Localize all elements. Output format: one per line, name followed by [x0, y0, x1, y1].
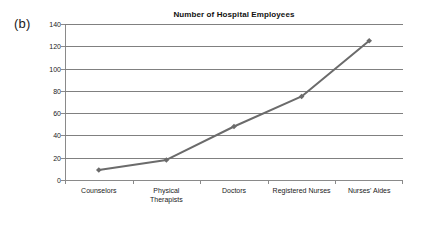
y-axis-tick-label: 100 [27, 65, 61, 72]
x-axis-category-label-line: Doctors [222, 187, 246, 194]
x-axis-tick-mark [65, 180, 66, 184]
x-axis-category-label-line: Counselors [81, 187, 116, 194]
x-axis-category-label-line: Nurses' Aides [348, 187, 391, 194]
series-line [65, 24, 403, 180]
y-axis-tick-label: 0 [27, 177, 61, 184]
x-axis-tick-marks [65, 180, 403, 185]
x-axis-category-label-line: Registered Nurses [273, 187, 331, 194]
x-axis-tick-mark [268, 180, 269, 184]
x-axis-category-label-line: Therapists [150, 195, 183, 204]
y-axis-tick-label: 40 [27, 132, 61, 139]
x-axis-tick-mark [133, 180, 134, 184]
y-axis-tick-labels: 140120100806040200 [25, 24, 61, 180]
y-axis-tick-label: 20 [27, 154, 61, 161]
x-axis-category-labels: CounselorsPhysicalTherapistsDoctorsRegis… [65, 186, 403, 222]
data-point-marker [96, 167, 102, 173]
series-polyline [99, 41, 369, 170]
chart-title: Number of Hospital Employees [65, 10, 403, 19]
x-axis-category-label-line: Physical [153, 187, 179, 194]
plot-area [65, 24, 403, 180]
x-axis-tick-mark [335, 180, 336, 184]
x-axis-category-label: Nurses' Aides [348, 186, 391, 195]
x-axis-category-label: Doctors [222, 186, 246, 195]
x-axis-tick-mark [402, 180, 403, 184]
x-axis-category-label: Counselors [81, 186, 116, 195]
y-axis-tick-label: 60 [27, 110, 61, 117]
figure-panel-b: (b) Number of Hospital Employees 1401201… [0, 0, 429, 227]
y-axis-tick-label: 120 [27, 43, 61, 50]
x-axis-tick-mark [200, 180, 201, 184]
y-axis-tick-label: 80 [27, 87, 61, 94]
x-axis-category-label: PhysicalTherapists [150, 186, 183, 204]
x-axis-category-label: Registered Nurses [273, 186, 331, 195]
y-axis-tick-label: 140 [27, 21, 61, 28]
